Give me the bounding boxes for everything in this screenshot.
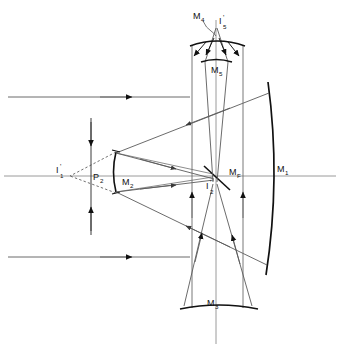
mf-label-subscript: F <box>237 172 241 179</box>
i1-label: I ' 1 <box>56 163 64 179</box>
m2-secondary-mirror <box>112 150 120 194</box>
m2-top-edge-tick <box>112 150 120 152</box>
m3-label-subscript: 3 <box>215 303 219 310</box>
i2-label-prime: ' <box>210 179 211 186</box>
ray-i2-to-m5-left <box>205 62 213 182</box>
ray-m2-top-to-mf-arrow <box>140 159 176 169</box>
m4-leader-line <box>203 21 216 36</box>
m1-label: M 1 <box>277 164 289 176</box>
i5-label-text: I <box>219 16 222 26</box>
ray-m3-left-to-i2 <box>184 184 213 306</box>
ray-m1-top-to-m2-top <box>116 93 269 153</box>
i1-label-prime: ' <box>60 163 61 170</box>
ray-m2-top-secondary-to-mf <box>116 153 213 174</box>
i1-label-text: I <box>56 165 59 175</box>
m4-label-subscript: 4 <box>201 16 205 23</box>
m2-label-subscript: 2 <box>130 182 134 189</box>
m2-mirror-arc <box>114 152 117 192</box>
ray-m1-bottom-to-m2-bottom-arrow <box>186 226 230 247</box>
p2-label-subscript: 2 <box>100 177 104 184</box>
p2-label-text: P <box>93 172 99 182</box>
m4-label-text: M <box>193 11 201 21</box>
m5-label: M 5 <box>211 65 223 77</box>
m3-label-text: M <box>207 298 215 308</box>
p2-label: P 2 <box>93 172 104 184</box>
m5-label-text: M <box>211 65 219 75</box>
i2-label-text: I <box>206 181 209 191</box>
m2-label: M 2 <box>122 177 134 189</box>
ray-m3-right-to-i2-arrow <box>232 235 240 264</box>
optical-diagram-figure: M 1 M 2 M 3 M 4 M 5 <box>0 0 340 349</box>
mf-label: M F <box>229 167 241 179</box>
ray-m3-left-to-i2-arrow <box>195 233 202 262</box>
i5-label-subscript: 5 <box>223 23 227 30</box>
m5-label-subscript: 5 <box>219 70 223 77</box>
m1-mirror-arc <box>266 82 274 275</box>
ray-m5-right-to-i5 <box>217 28 228 62</box>
axis-group <box>4 20 336 344</box>
m1-to-m2-ray-group <box>116 93 269 265</box>
m3-label: M 3 <box>207 298 219 310</box>
i5-label: I ' 5 <box>219 14 227 30</box>
i5-label-prime: ' <box>223 14 224 21</box>
optical-ray-diagram-canvas: M 1 M 2 M 3 M 4 M 5 <box>0 0 340 349</box>
m1-primary-mirror <box>266 82 274 275</box>
m4-mirror-arc <box>190 41 245 46</box>
mf-label-text: M <box>229 167 237 177</box>
m4-mirror <box>190 21 245 46</box>
m2-label-text: M <box>122 177 130 187</box>
i2-label-subscript: 2 <box>210 188 214 195</box>
i1-label-subscript: 1 <box>60 172 64 179</box>
m4-label: M 4 <box>193 11 205 23</box>
fold-arrow-inner-left <box>206 38 214 55</box>
ray-i2-to-m5-right <box>217 62 228 182</box>
m3-to-mf-ray-group <box>184 184 252 306</box>
m1-label-text: M <box>277 164 285 174</box>
m1-label-subscript: 1 <box>285 169 289 176</box>
